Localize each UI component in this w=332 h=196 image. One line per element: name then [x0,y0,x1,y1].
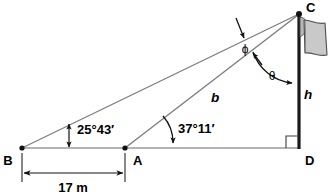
vertex-label-c: C [306,0,316,15]
waving-flag [300,17,327,55]
diagram-canvas: B A D C 25°43′ 37°11′ ϕ θ b h 17 m [0,0,332,196]
right-angle-marker-at-d [286,136,298,148]
height-label-h: h [304,87,312,102]
angle-label-phi: ϕ [242,42,249,56]
angle-indicator-at-a [163,116,173,143]
side-length-label-b: b [211,90,219,105]
angle-label-at-a: 37°11′ [178,121,215,136]
flagpole-diagram: B A D C 25°43′ 37°11′ ϕ θ b h 17 m [0,0,332,196]
vertex-label-a: A [133,153,143,168]
dimension-label-17m: 17 m [58,180,88,195]
sight-line-b-to-c [22,15,298,149]
vertex-label-b: B [3,153,12,168]
dimension-line-17m [22,153,125,182]
vertex-label-d: D [305,153,314,168]
angle-label-theta: θ [269,69,276,83]
angle-indicator-phi [236,18,262,65]
angle-label-at-b: 25°43′ [77,122,114,137]
